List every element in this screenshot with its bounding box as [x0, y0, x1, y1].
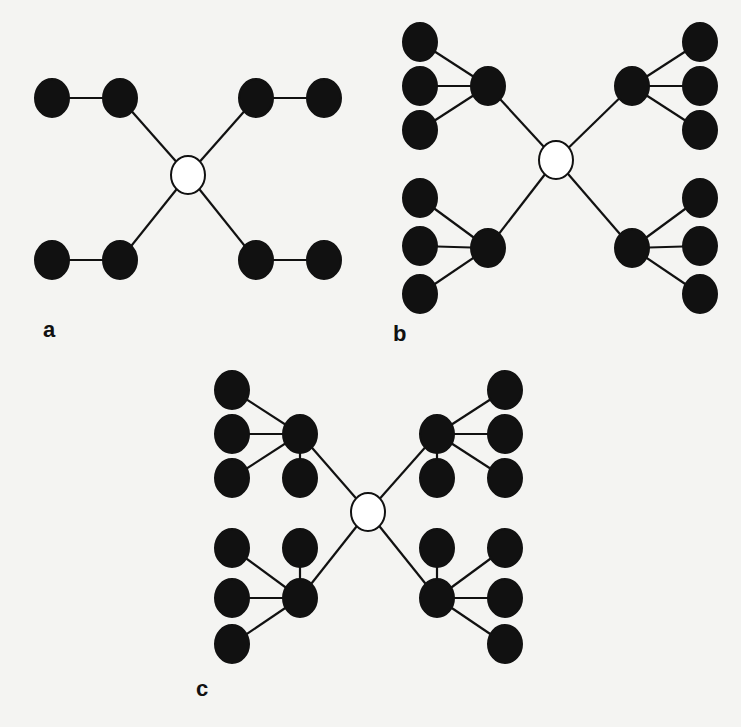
- leaf-node: [307, 241, 341, 279]
- leaf-node: [215, 625, 249, 663]
- leaf-node: [683, 111, 717, 149]
- leaf-node: [403, 111, 437, 149]
- leaf-node: [488, 371, 522, 409]
- leaf-node: [403, 67, 437, 105]
- hub-node: [615, 67, 649, 105]
- leaf-node: [683, 67, 717, 105]
- leaf-node: [683, 179, 717, 217]
- leaf-node: [488, 625, 522, 663]
- leaf-node: [215, 529, 249, 567]
- panel-label-b: b: [393, 323, 406, 345]
- hub-node: [103, 241, 137, 279]
- center-node-a: [171, 156, 205, 194]
- leaf-node: [488, 579, 522, 617]
- leaf-node: [35, 79, 69, 117]
- hub-node: [420, 415, 454, 453]
- edges-layer: [52, 42, 700, 644]
- leaf-node: [683, 275, 717, 313]
- leaf-node: [420, 529, 454, 567]
- hub-node: [420, 579, 454, 617]
- panel-label-a: a: [43, 319, 55, 341]
- leaf-node: [215, 459, 249, 497]
- hub-node: [283, 579, 317, 617]
- leaf-node: [488, 415, 522, 453]
- leaf-node: [403, 179, 437, 217]
- panel-label-c: c: [196, 678, 208, 700]
- hub-node: [239, 241, 273, 279]
- leaf-node: [403, 227, 437, 265]
- leaf-node: [488, 459, 522, 497]
- leaf-node: [403, 23, 437, 61]
- leaf-node: [283, 529, 317, 567]
- leaf-node: [215, 415, 249, 453]
- hub-node: [239, 79, 273, 117]
- leaf-node: [683, 23, 717, 61]
- leaf-node: [307, 79, 341, 117]
- hub-node: [283, 415, 317, 453]
- hub-node: [471, 229, 505, 267]
- hub-node: [615, 229, 649, 267]
- leaf-node: [35, 241, 69, 279]
- leaf-node: [683, 227, 717, 265]
- leaf-node: [215, 371, 249, 409]
- leaf-node: [283, 459, 317, 497]
- tree-diagram-figure: [0, 0, 741, 727]
- leaf-node: [215, 579, 249, 617]
- leaf-node: [488, 529, 522, 567]
- center-node-c: [351, 493, 385, 531]
- leaf-node: [420, 459, 454, 497]
- center-node-b: [539, 141, 573, 179]
- leaf-node: [403, 275, 437, 313]
- hub-node: [103, 79, 137, 117]
- hub-node: [471, 67, 505, 105]
